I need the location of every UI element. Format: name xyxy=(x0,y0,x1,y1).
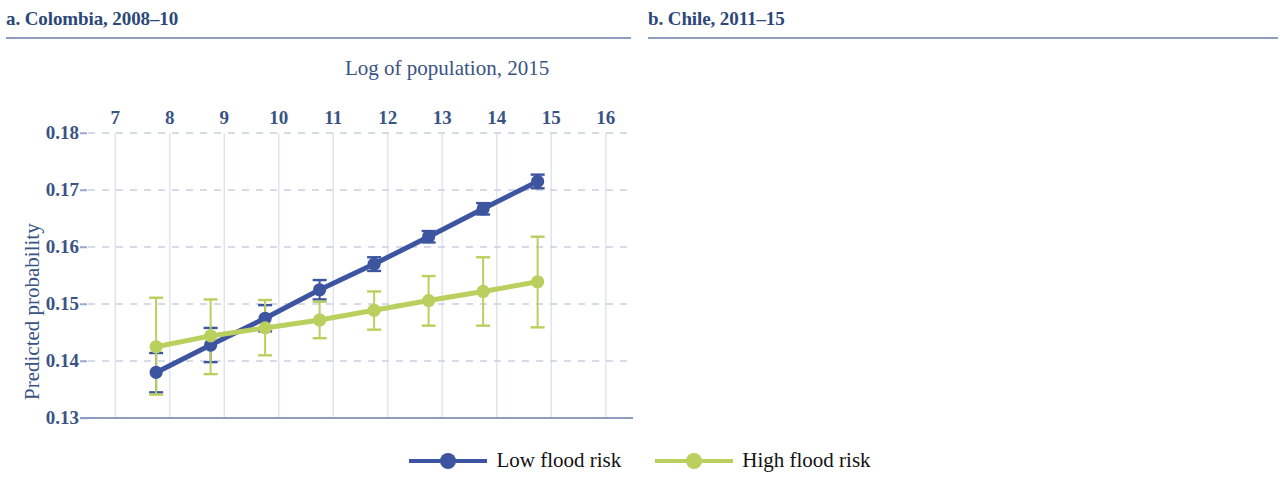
x-axis-tick-label: 10 xyxy=(269,107,288,129)
y-axis-tick-mark xyxy=(80,303,87,305)
y-axis-tick-label: 0.17 xyxy=(46,179,79,201)
y-axis-tick-label: 0.15 xyxy=(46,293,79,315)
x-axis-tick-label: 12 xyxy=(378,107,397,129)
x-axis-tick-label: 7 xyxy=(111,107,121,129)
data-point xyxy=(477,202,490,215)
data-point xyxy=(150,340,163,353)
data-point xyxy=(150,366,163,379)
panel-a-yaxis-title: Predicted probability xyxy=(20,223,45,400)
panel-colombia: a. Colombia, 2008–10 Log of population, … xyxy=(0,0,640,440)
y-axis-tick-mark xyxy=(80,132,87,134)
data-point xyxy=(368,304,381,317)
panel-a-plot-area: 0.130.140.150.160.170.187891011121314151… xyxy=(88,133,633,418)
x-axis-tick-label: 11 xyxy=(324,107,342,129)
data-point xyxy=(368,258,381,271)
data-point xyxy=(259,321,272,334)
legend-item-low-flood-risk: Low flood risk xyxy=(409,448,621,473)
data-point xyxy=(313,313,326,326)
x-axis-tick-label: 9 xyxy=(220,107,230,129)
legend-swatch-high-flood-risk xyxy=(655,451,733,471)
data-point xyxy=(204,329,217,342)
panel-a-xaxis-title: Log of population, 2015 xyxy=(345,56,549,81)
legend-label-high-flood-risk: High flood risk xyxy=(742,448,870,473)
x-axis-tick-label: 16 xyxy=(596,107,615,129)
plot-canvas xyxy=(88,133,633,418)
y-axis-tick-label: 0.16 xyxy=(46,236,79,258)
x-axis-tick-label: 8 xyxy=(165,107,175,129)
data-point xyxy=(477,285,490,298)
y-axis-tick-label: 0.18 xyxy=(46,122,79,144)
panel-b-title-rule xyxy=(648,37,1278,39)
data-point xyxy=(422,294,435,307)
x-axis-tick-label: 14 xyxy=(487,107,506,129)
legend-label-low-flood-risk: Low flood risk xyxy=(496,448,621,473)
data-point xyxy=(422,230,435,243)
x-axis-tick-label: 13 xyxy=(433,107,452,129)
data-point xyxy=(531,175,544,188)
y-axis-tick-label: 0.14 xyxy=(46,350,79,372)
figure: a. Colombia, 2008–10 Log of population, … xyxy=(0,0,1280,486)
legend: Low flood risk High flood risk xyxy=(0,448,1280,473)
y-axis-tick-mark xyxy=(80,246,87,248)
y-axis-tick-mark xyxy=(80,189,87,191)
data-point xyxy=(313,283,326,296)
legend-item-high-flood-risk: High flood risk xyxy=(655,448,870,473)
data-point xyxy=(531,275,544,288)
y-axis-tick-mark xyxy=(80,360,87,362)
legend-swatch-low-flood-risk xyxy=(409,451,487,471)
y-axis-tick-label: 0.13 xyxy=(46,407,79,429)
panel-chile: b. Chile, 2011–15 Log of population, 201… xyxy=(640,0,1280,440)
panel-b-title: b. Chile, 2011–15 xyxy=(648,8,785,30)
x-axis-tick-label: 15 xyxy=(542,107,561,129)
panel-a-title: a. Colombia, 2008–10 xyxy=(6,8,178,30)
panel-a-title-rule xyxy=(6,37,631,39)
